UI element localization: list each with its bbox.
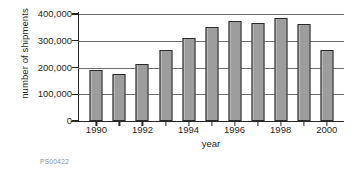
- bar-slot: [131, 14, 154, 121]
- x-axis-tick-label: 1998: [258, 124, 304, 136]
- bar-slot: [108, 14, 131, 121]
- bar-series: [78, 14, 344, 121]
- x-axis-tick-label: 1994: [166, 124, 212, 136]
- bar: [205, 27, 218, 121]
- bar: [159, 50, 172, 121]
- plot-area: [78, 14, 344, 121]
- bar: [228, 21, 241, 121]
- bar-slot: [177, 14, 200, 121]
- bar: [320, 50, 333, 121]
- bar-slot: [154, 14, 177, 121]
- y-axis-tick-label: 0: [6, 116, 72, 126]
- y-axis-tick-label: 300,000: [6, 36, 72, 46]
- x-axis-tick-label: 2000: [304, 124, 350, 136]
- bar: [90, 70, 103, 121]
- figure-reference-code: PS00422: [40, 158, 69, 165]
- y-axis-tick-label: 400,000: [6, 9, 72, 19]
- y-axis-tick-labels: 0100,000200,000300,000400,000: [6, 0, 72, 175]
- bar-slot: [269, 14, 292, 121]
- bar-slot: [292, 14, 315, 121]
- bar-slot: [315, 14, 338, 121]
- bar: [136, 64, 149, 121]
- bar-slot: [85, 14, 108, 121]
- x-axis-tick-label: 1996: [212, 124, 258, 136]
- bar-slot: [223, 14, 246, 121]
- y-axis-tick-label: 100,000: [6, 89, 72, 99]
- x-axis-tick-label: 1990: [73, 124, 119, 136]
- bar-slot: [246, 14, 269, 121]
- bar: [251, 23, 264, 121]
- bar-slot: [200, 14, 223, 121]
- y-axis-tick-mark: [72, 120, 79, 121]
- x-axis-tick-labels: 199019921994199619982000: [78, 124, 344, 138]
- bar: [274, 18, 287, 121]
- x-axis-tick-label: 1992: [119, 124, 165, 136]
- x-axis-title: year: [78, 138, 344, 149]
- bar: [297, 24, 310, 121]
- bar-chart-figure: number of shipments 0100,000200,000300,0…: [0, 0, 354, 175]
- bar: [113, 74, 126, 121]
- bar: [182, 38, 195, 121]
- y-axis-tick-label: 200,000: [6, 63, 72, 73]
